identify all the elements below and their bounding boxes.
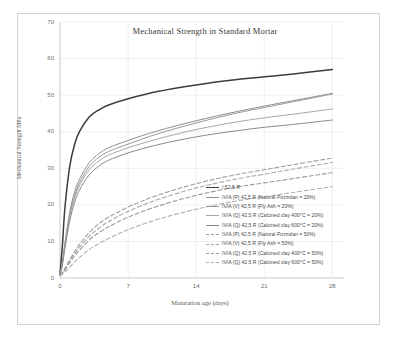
y-tick-label: 60 [36,55,54,61]
legend-item: I 52,5 R [206,183,352,192]
x-tick-label: 0 [50,283,70,289]
legend: I 52,5 RIV/A (P) 42,5 R (Natural Pozzola… [206,183,352,268]
legend-line-swatch [206,244,219,245]
legend-line-swatch [206,225,219,226]
legend-item: IV/A (V) 42,5 R (Fly Ash = 50%) [206,239,352,248]
legend-label: IV/A (Q) 42,5 R (Calcined clay 400°C = 5… [222,251,323,256]
legend-item: IV/A (Q) 42,5 R (Calcined clay 400°C = 5… [206,249,352,258]
legend-item: IV/A (Q) 42,5 R (Calcined clay 600°C = 5… [206,258,352,267]
legend-item: IV/A (P) 42,5 R (Natural Pozzolan = 20%) [206,192,352,201]
y-tick-label: 0 [36,275,54,281]
legend-line-swatch [206,262,219,263]
y-tick-label: 10 [36,238,54,244]
legend-label: IV/A (Q) 42,5 R (Calcined clay 600°C = 2… [222,223,323,228]
x-tick-label: 14 [186,283,206,289]
legend-line-swatch [206,253,219,254]
legend-item: IV/A (Q) 42,5 R (Calcined clay 600°C = 2… [206,221,352,230]
legend-label: IV/A (Q) 42,5 R (Calcined clay 600°C = 5… [222,260,323,265]
legend-line-swatch [206,187,219,188]
x-axis-label: Maturation age (days) [120,299,280,306]
legend-line-swatch [206,215,219,216]
legend-label: IV/A (Q) 42,5 R (Calcined clay 400°C = 2… [222,213,323,218]
y-tick-label: 50 [36,92,54,98]
y-axis-label: Mechanical Strength MPa [16,103,22,193]
y-tick-label: 70 [36,19,54,25]
chart-title: Mechanical Strength in Standard Mortar [110,26,300,36]
y-tick-label: 30 [36,165,54,171]
figure: Mechanical Strength in Standard Mortar M… [0,0,398,339]
legend-label: I 52,5 R [222,185,240,190]
x-tick-label: 21 [254,283,274,289]
legend-label: IV/A (P) 42,5 R (Natural Pozzolan = 20%) [222,195,316,200]
legend-item: IV/A (Q) 42,5 R (Calcined clay 400°C = 2… [206,211,352,220]
legend-line-swatch [206,206,219,207]
legend-item: IV/A (V) 42,5 R (Fly Ash = 20%) [206,202,352,211]
legend-label: IV/A (V) 42,5 R (Fly Ash = 20%) [222,204,293,209]
legend-label: IV/A (P) 42,5 R (Natural Pozzolan = 50%) [222,232,316,237]
x-tick-label: 7 [118,283,138,289]
legend-line-swatch [206,234,219,235]
x-tick-label: 28 [322,283,342,289]
y-tick-label: 20 [36,201,54,207]
legend-label: IV/A (V) 42,5 R (Fly Ash = 50%) [222,241,293,246]
legend-item: IV/A (P) 42,5 R (Natural Pozzolan = 50%) [206,230,352,239]
legend-line-swatch [206,197,219,198]
y-tick-label: 40 [36,128,54,134]
